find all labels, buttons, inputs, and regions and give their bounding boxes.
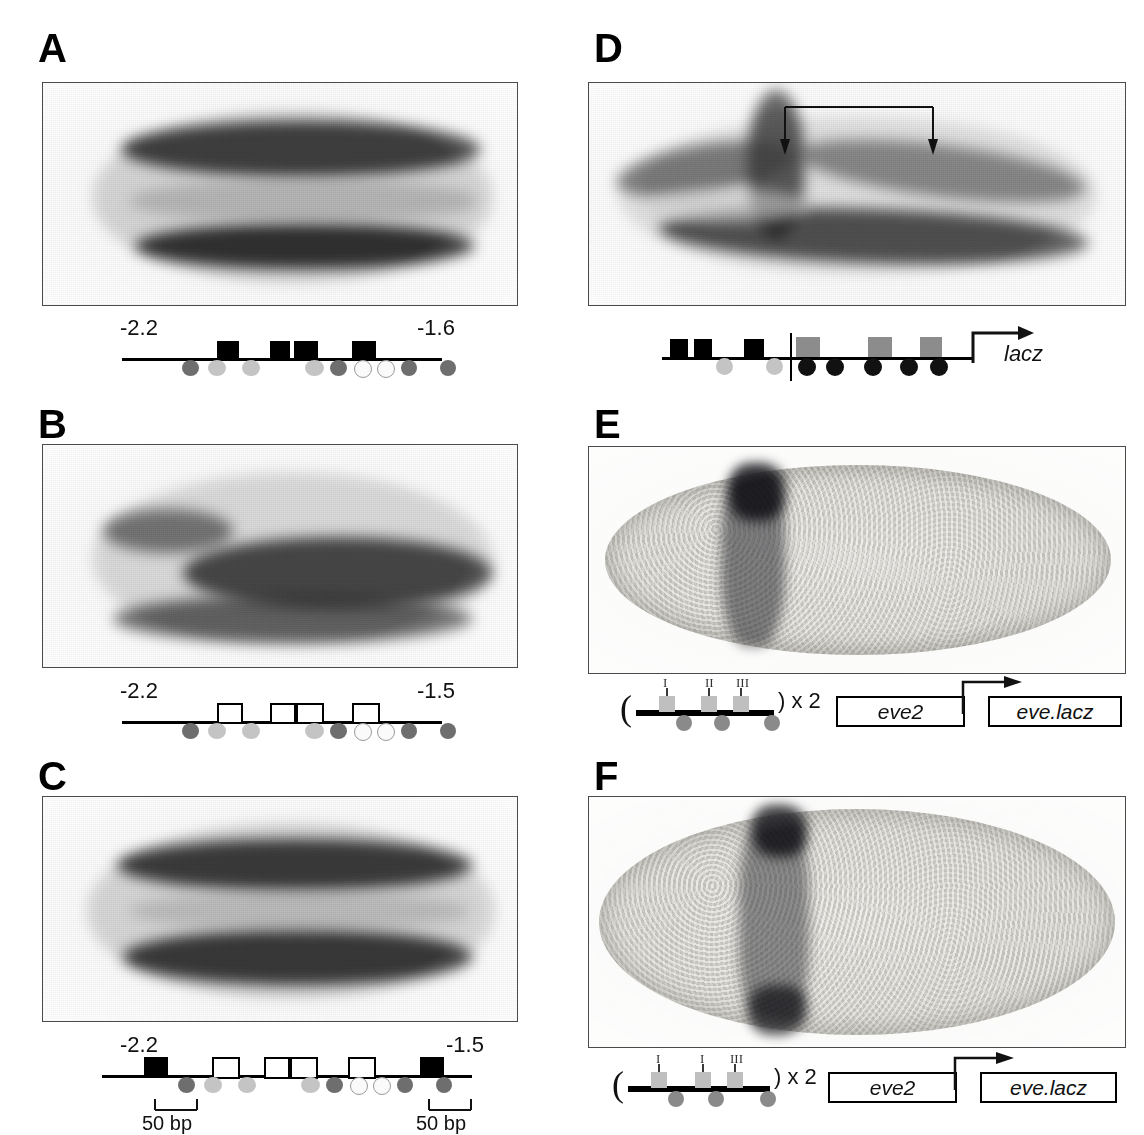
- panel-c-letter: C: [38, 756, 66, 796]
- panel-d-embryo-image: [589, 83, 1125, 305]
- panel-f-multimer-label: ) x 2: [774, 1066, 817, 1088]
- panel-c: C -2.2 -1.5: [0, 750, 572, 1131]
- binding-box-lightgray: [659, 696, 675, 712]
- binding-circle-dark: [436, 1077, 452, 1093]
- gene-label-eve2: eve2: [870, 1076, 916, 1100]
- site-label-III: III: [730, 1052, 743, 1065]
- binding-circle-mid: [676, 715, 692, 731]
- panel-f-letter: F: [594, 756, 617, 796]
- embryo-cell-texture-f: [599, 809, 1115, 1035]
- panel-c-coord-left: -2.2: [120, 1032, 158, 1058]
- binding-circle-dark: [401, 723, 417, 739]
- gene-box-evelacz: eve.lacz: [980, 1072, 1117, 1103]
- gene-label-evelacz: eve.lacz: [1010, 1076, 1087, 1100]
- panel-e-multimer-label: ) x 2: [778, 690, 821, 712]
- binding-circle-black: [826, 358, 844, 376]
- binding-box-open: [217, 703, 243, 724]
- embryo-cell-texture-e: [605, 465, 1111, 655]
- panel-a: A -2.2 -1.6: [0, 0, 572, 400]
- binding-box-open: [348, 1057, 376, 1079]
- scale-bracket-right: [428, 1098, 472, 1112]
- binding-circle-light: [305, 723, 324, 739]
- arrow-bracket-annotation: [779, 103, 939, 159]
- binding-box-filled: [420, 1057, 444, 1075]
- binding-circle-mid: [764, 715, 780, 731]
- whole-embryo-f: [599, 809, 1115, 1035]
- site-label-III: III: [736, 676, 749, 689]
- site-tick: [666, 688, 668, 696]
- binding-circle-mid: [760, 1091, 776, 1107]
- gene-label-eve2: eve2: [878, 700, 924, 724]
- eve2-stripe-core-f: [753, 805, 807, 857]
- panel-a-letter: A: [38, 28, 66, 68]
- binding-box-open: [290, 1057, 318, 1079]
- scale-label-left: 50 bp: [142, 1112, 192, 1135]
- eve2-stripe-core-e: [729, 463, 785, 521]
- panel-f-micrograph: [588, 796, 1126, 1048]
- binding-circle-mid: [708, 1091, 724, 1107]
- binding-circle-open: [350, 1077, 368, 1095]
- binding-circle-open: [373, 1077, 391, 1095]
- site-tick: [702, 1064, 704, 1072]
- binding-circle-dark: [401, 360, 417, 376]
- binding-box-gray: [796, 337, 820, 357]
- binding-circle-light: [238, 1077, 256, 1093]
- panel-c-coord-right: -1.5: [446, 1032, 484, 1058]
- panel-a-construct: -2.2 -1.6: [42, 315, 516, 385]
- gene-label-evelacz: eve.lacz: [1016, 700, 1093, 724]
- binding-box-filled: [294, 341, 318, 359]
- scale-bracket-left: [154, 1098, 198, 1112]
- binding-circle-light: [301, 1077, 320, 1093]
- binding-box-filled: [670, 339, 688, 357]
- panel-b-micrograph: [42, 444, 518, 668]
- binding-box-gray: [868, 337, 892, 357]
- binding-box-lightgray: [695, 1072, 711, 1088]
- binding-circle-light: [242, 360, 260, 376]
- panel-e: E ( I II III ) x 2 eve2: [572, 400, 1144, 750]
- binding-circle-light: [766, 358, 783, 375]
- binding-box-filled: [144, 1057, 168, 1075]
- binding-box-filled: [270, 341, 290, 359]
- whole-embryo-e: [605, 465, 1111, 655]
- binding-circle-light: [208, 723, 226, 739]
- binding-circle-open: [377, 723, 395, 741]
- panel-d-letter: D: [594, 28, 622, 68]
- panel-c-construct: -2.2 -1.5 50 bp 50 bp: [42, 1032, 542, 1132]
- panel-a-coord-right: -1.6: [417, 315, 455, 341]
- binding-box-lightgray: [733, 696, 749, 712]
- embryo-stripe-c-dorsal: [117, 839, 473, 891]
- binding-circle-dark: [330, 723, 347, 739]
- panel-e-letter: E: [594, 404, 620, 444]
- panel-b-letter: B: [38, 404, 66, 444]
- panel-f-paren-open: (: [612, 1066, 624, 1102]
- binding-circle-open: [377, 360, 395, 378]
- binding-box-filled: [217, 341, 239, 359]
- binding-circle-dark: [397, 1077, 413, 1093]
- embryo-mid-c: [129, 891, 469, 931]
- panel-f: F ( I I III ) x 2 eve2: [572, 750, 1144, 1131]
- binding-circle-mid: [714, 715, 730, 731]
- embryo-stripe-b-lower: [113, 595, 473, 643]
- binding-circle-black: [798, 358, 816, 376]
- binding-box-filled: [694, 339, 712, 357]
- site-tick: [740, 688, 742, 696]
- panel-a-embryo-image: [43, 83, 517, 305]
- binding-box-lightgray: [701, 696, 717, 712]
- panel-b-coord-left: -2.2: [120, 678, 158, 704]
- binding-box-gray: [920, 337, 942, 357]
- panel-e-micrograph: [588, 446, 1126, 674]
- gene-box-eve2: eve2: [836, 696, 965, 727]
- panel-e-construct: ( I II III ) x 2 eve2 eve.lacz: [588, 686, 1138, 746]
- binding-circle-light: [305, 360, 324, 376]
- panel-b-embryo-image: [43, 445, 517, 667]
- binding-circle-light: [208, 360, 226, 376]
- panel-b-coord-right: -1.5: [417, 678, 455, 704]
- embryo-mid-a: [129, 179, 479, 223]
- binding-circle-dark: [326, 1077, 343, 1093]
- binding-circle-open: [354, 360, 372, 378]
- panel-d-dna-line: [662, 357, 972, 360]
- gene-box-evelacz: eve.lacz: [988, 696, 1122, 727]
- panel-d: D: [572, 0, 1144, 400]
- site-tick: [708, 688, 710, 696]
- panel-f-construct: ( I I III ) x 2 eve2 eve.lacz: [588, 1062, 1138, 1122]
